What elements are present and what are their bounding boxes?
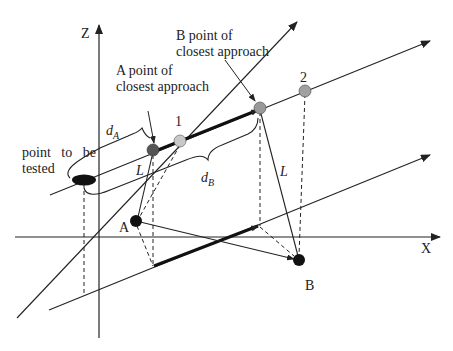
point-2: [299, 85, 311, 97]
point-b: [293, 254, 305, 266]
point-b-label: B: [305, 278, 314, 293]
point-a: [130, 215, 142, 227]
z-axis-label: Z: [81, 26, 90, 41]
b-closest-pointer: [225, 60, 255, 101]
d-b-subscript: B: [208, 177, 214, 188]
d-b-label: dB: [201, 170, 214, 186]
d-a-label: dA: [106, 123, 119, 139]
point-b-closest-approach: [254, 102, 266, 114]
point-1-label: 1: [175, 114, 182, 129]
b-closest-label-line1: B point of: [176, 28, 233, 43]
b-closest-label-line2: closest approach: [176, 44, 269, 59]
a-closest-label-line1: A point of: [116, 63, 173, 78]
a-to-b-vector: [136, 221, 294, 259]
a-closest-label-line2: closest approach: [116, 79, 209, 94]
point-2-label: 2: [300, 70, 307, 85]
l-line-b: [260, 110, 298, 256]
a-closest-pointer: [148, 111, 154, 143]
l-label-right: L: [280, 164, 288, 179]
point-tested-label-line2: tested: [22, 161, 55, 176]
d-a-subscript: A: [113, 130, 119, 141]
d-a-main: d: [106, 123, 113, 138]
point-to-be-tested: [72, 175, 96, 186]
l-label-left: L: [136, 163, 144, 178]
d-b-main: d: [201, 170, 208, 185]
lower-thick-segment: [154, 226, 258, 266]
point-a-closest-approach: [147, 144, 159, 156]
closest-approach-diagram: Z X A point of closest approach B point …: [0, 0, 453, 351]
x-axis-label: X: [421, 241, 431, 256]
point-a-label: A: [119, 220, 129, 235]
point-tested-label-line1: point to be: [22, 145, 96, 160]
upper-thick-segment: [153, 110, 258, 152]
point-1: [174, 135, 186, 147]
